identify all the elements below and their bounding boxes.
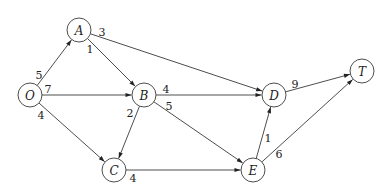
edge-weight-e-d: 1 [265,132,272,145]
node-label: E [248,164,258,178]
node-label: O [25,89,35,103]
network-graph: OABCDET 574134254196 [0,0,391,189]
node-label: A [74,24,84,38]
edge-weight-a-d: 3 [99,26,106,39]
node-o: O [18,83,42,107]
node-label: B [139,89,149,103]
edge-o-c [39,103,105,162]
node-c: C [102,158,126,182]
edge-weight-e-t: 6 [276,148,283,161]
edge-a-d [90,34,262,91]
edge-weight-o-a: 5 [36,69,43,82]
edge-a-b [87,38,135,86]
node-label: D [268,89,279,103]
edge-weight-d-t: 9 [292,78,299,91]
node-label: T [358,65,367,79]
edge-weight-b-d: 4 [163,83,170,96]
node-label: C [109,164,118,178]
edge-weight-b-e: 5 [166,100,173,113]
node-d: D [262,83,286,107]
edge-weight-o-b: 7 [45,83,52,96]
node-a: A [67,18,91,42]
edge-weight-o-c: 4 [38,109,45,122]
node-t: T [350,59,374,83]
edge-weight-a-b: 1 [87,43,94,56]
edge-weight-c-e: 4 [130,172,137,185]
node-b: B [132,83,156,107]
edge-weight-b-c: 2 [127,107,134,120]
nodes-layer: OABCDET [18,18,374,182]
node-e: E [241,158,265,182]
edges-layer [37,34,353,170]
